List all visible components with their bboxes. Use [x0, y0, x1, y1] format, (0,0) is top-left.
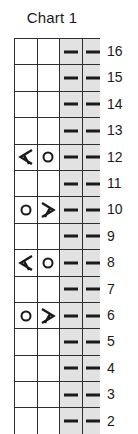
purl-dash-symbol-icon [83, 39, 101, 64]
chart-row [15, 223, 101, 249]
chart-cell[interactable] [82, 91, 100, 117]
purl-dash-symbol-icon [60, 224, 82, 249]
chart-cell[interactable] [60, 355, 83, 381]
chart-cell[interactable] [37, 329, 60, 355]
chart-cell[interactable] [37, 302, 60, 328]
row-number-label: 15 [104, 64, 134, 90]
purl-dash-symbol-icon [60, 408, 82, 433]
empty-cell-icon [38, 118, 60, 143]
chart-cell[interactable] [60, 170, 83, 196]
chart-cell[interactable] [15, 276, 38, 302]
row-number-label: 16 [104, 38, 134, 64]
chart-cell[interactable] [15, 302, 38, 328]
chart-cell[interactable] [37, 197, 60, 223]
chart-cell[interactable] [82, 144, 100, 170]
chart-cell[interactable] [37, 118, 60, 144]
purl-dash-symbol-icon [60, 118, 82, 143]
chart-cell[interactable] [82, 355, 100, 381]
chart-cell[interactable] [60, 276, 83, 302]
chart-cell[interactable] [60, 408, 83, 434]
chart-cell[interactable] [82, 250, 100, 276]
knitting-chart: Chart 1 1615141312111098765432 [0, 0, 138, 434]
chart-cell[interactable] [37, 355, 60, 381]
chart-cell[interactable] [82, 118, 100, 144]
chart-cell[interactable] [82, 223, 100, 249]
purl-dash-symbol-icon [83, 356, 101, 381]
chart-cell[interactable] [60, 302, 83, 328]
chart-cell[interactable] [60, 382, 83, 408]
chart-cell[interactable] [15, 144, 38, 170]
row-number-label: 8 [104, 249, 134, 275]
chart-cell[interactable] [60, 197, 83, 223]
chart-cell[interactable] [82, 276, 100, 302]
purl-dash-symbol-icon [83, 329, 101, 354]
chart-row [15, 170, 101, 196]
yarn-over-circle-symbol-icon [15, 197, 37, 222]
chart-cell[interactable] [15, 355, 38, 381]
chart-cell[interactable] [37, 65, 60, 91]
chart-cell[interactable] [60, 223, 83, 249]
chart-cell[interactable] [15, 408, 38, 434]
chart-cell[interactable] [82, 39, 100, 65]
chart-cell[interactable] [60, 144, 83, 170]
row-number-label: 11 [104, 170, 134, 196]
chart-cell[interactable] [82, 302, 100, 328]
empty-cell-icon [15, 65, 37, 90]
chart-grid-container [14, 38, 100, 434]
chart-cell[interactable] [37, 170, 60, 196]
chart-cell[interactable] [15, 118, 38, 144]
row-number-label: 4 [104, 355, 134, 381]
chart-row [15, 355, 101, 381]
empty-cell-icon [15, 382, 37, 407]
chart-cell[interactable] [15, 197, 38, 223]
chart-cell[interactable] [82, 197, 100, 223]
chart-cell[interactable] [37, 39, 60, 65]
chart-cell[interactable] [37, 91, 60, 117]
purl-dash-symbol-icon [60, 171, 82, 196]
chart-cell[interactable] [37, 144, 60, 170]
empty-cell-icon [38, 329, 60, 354]
chart-row [15, 408, 101, 434]
purl-dash-symbol-icon [83, 224, 101, 249]
chart-cell[interactable] [82, 408, 100, 434]
chart-cell[interactable] [60, 250, 83, 276]
purl-dash-symbol-icon [60, 145, 82, 170]
chart-cell[interactable] [82, 382, 100, 408]
purl-dash-symbol-icon [60, 382, 82, 407]
chart-cell[interactable] [82, 170, 100, 196]
chart-row [15, 329, 101, 355]
empty-cell-icon [15, 92, 37, 117]
chart-row [15, 91, 101, 117]
empty-cell-icon [38, 65, 60, 90]
chart-cell[interactable] [15, 170, 38, 196]
chart-cell[interactable] [15, 91, 38, 117]
purl-dash-symbol-icon [60, 277, 82, 302]
chart-cell[interactable] [60, 39, 83, 65]
chart-cell[interactable] [15, 250, 38, 276]
chart-row [15, 39, 101, 65]
chart-cell[interactable] [15, 39, 38, 65]
chart-cell[interactable] [60, 329, 83, 355]
chart-cell[interactable] [15, 223, 38, 249]
chart-cell[interactable] [60, 118, 83, 144]
row-number-label: 14 [104, 91, 134, 117]
purl-dash-symbol-icon [60, 250, 82, 275]
chart-cell[interactable] [82, 329, 100, 355]
chart-cell[interactable] [37, 382, 60, 408]
chart-cell[interactable] [15, 65, 38, 91]
chart-cell[interactable] [37, 408, 60, 434]
empty-cell-icon [38, 356, 60, 381]
chart-cell[interactable] [37, 223, 60, 249]
chart-cell[interactable] [60, 65, 83, 91]
chart-cell[interactable] [15, 329, 38, 355]
chart-cell[interactable] [15, 382, 38, 408]
chart-cell[interactable] [60, 91, 83, 117]
purl-dash-symbol-icon [60, 356, 82, 381]
chart-cell[interactable] [82, 65, 100, 91]
chart-cell[interactable] [37, 250, 60, 276]
left-leaning-decrease-symbol-icon [15, 145, 37, 170]
right-leaning-decrease-symbol-icon [38, 303, 60, 328]
purl-dash-symbol-icon [83, 382, 101, 407]
empty-cell-icon [15, 277, 37, 302]
chart-cell[interactable] [37, 276, 60, 302]
